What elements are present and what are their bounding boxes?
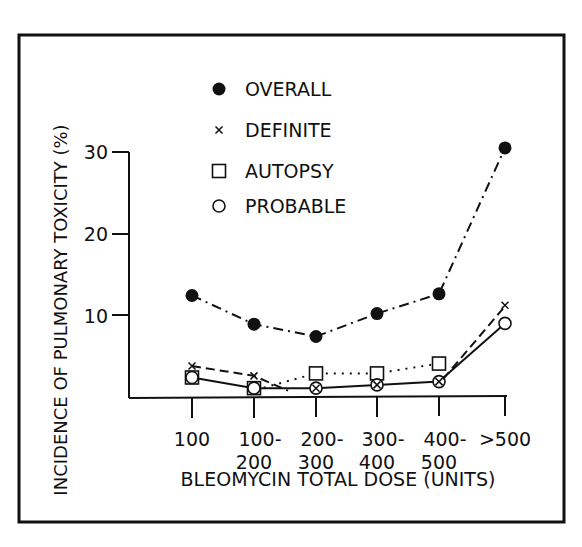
marker-open-square-icon (213, 165, 226, 178)
legend: OVERALLDEFINITEAUTOPSYPROBABLE (213, 78, 347, 217)
marker-open-square-icon (310, 367, 323, 380)
legend-label: OVERALL (245, 78, 332, 100)
legend-label: PROBABLE (245, 195, 346, 217)
chart: 102030 100100-200200-300300-400400-500>5… (0, 0, 582, 547)
legend-label: AUTOPSY (245, 160, 334, 182)
x-tick-label: >500 (479, 428, 531, 450)
x-tick-label: 400- (423, 428, 466, 450)
series-overall (186, 141, 512, 343)
marker-x-icon (502, 302, 509, 309)
marker-filled-circle-icon (213, 83, 226, 96)
x-axis-label: BLEOMYCIN TOTAL DOSE (UNITS) (181, 468, 496, 490)
marker-open-circle-icon (248, 382, 260, 394)
y-tick-label: 30 (84, 141, 108, 163)
legend-label: DEFINITE (245, 119, 332, 141)
x-tick-label: 200- (300, 428, 343, 450)
marker-open-circle-icon (213, 200, 225, 212)
x-tick-label: 100- (238, 428, 281, 450)
marker-filled-circle-icon (186, 289, 199, 302)
legend-item-probable: PROBABLE (213, 195, 346, 217)
y-tick-labels: 102030 (84, 141, 108, 327)
marker-open-circle-icon (499, 317, 511, 329)
x-axis (129, 396, 507, 418)
x-tick-label: 100 (174, 428, 210, 450)
x-tick-labels: 100100-200200-300300-400400-500>500 (174, 428, 531, 473)
legend-item-autopsy: AUTOPSY (213, 160, 334, 182)
legend-item-definite: DEFINITE (216, 119, 332, 141)
y-axis (112, 152, 129, 398)
y-tick-label: 10 (84, 305, 108, 327)
marker-open-square-icon (371, 367, 384, 380)
marker-open-square-icon (433, 357, 446, 370)
marker-filled-circle-icon (499, 141, 512, 154)
marker-open-circle-icon (186, 372, 198, 384)
y-axis-label: INCIDENCE OF PULMONARY TOXICITY (%) (50, 124, 71, 495)
marker-filled-circle-icon (371, 307, 384, 320)
marker-filled-circle-icon (433, 287, 446, 300)
marker-filled-circle-icon (310, 330, 323, 343)
marker-filled-circle-icon (248, 318, 261, 331)
legend-item-overall: OVERALL (213, 78, 332, 100)
plot-area (186, 141, 512, 394)
x-tick-label: 300- (361, 428, 404, 450)
marker-x-icon (216, 127, 223, 134)
y-tick-label: 20 (84, 223, 108, 245)
